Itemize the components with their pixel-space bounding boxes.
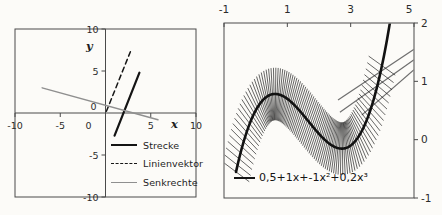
plots-layer: -10-505101050-5-10-1135210-1 (0, 0, 442, 215)
y-tick-label: 5 (92, 66, 98, 77)
legend-item-senkrechte: Senkrechte (111, 173, 203, 192)
right-y-tick-label: 0 (421, 133, 428, 145)
legend-item-linienvektor: Linienvektor (111, 155, 203, 174)
top-x-tick-label: 3 (347, 3, 354, 15)
left-chart-x-axis-label: x (171, 119, 178, 131)
legend-item-strecke: Strecke (111, 136, 203, 155)
cubic-formula-label: 0,5+1x+-1x²+0,2x³ (259, 171, 368, 184)
x-tick-label: -10 (7, 120, 23, 131)
x-tick-label: -5 (56, 120, 65, 131)
cubic-curve-swatch (234, 177, 255, 179)
y-tick-label: -5 (89, 150, 98, 161)
scanned-figure: -10-505101050-5-10-1135210-1 y x Strecke… (0, 0, 442, 215)
left-chart-y-axis-label: y (86, 41, 93, 53)
top-x-tick-label: -1 (219, 3, 229, 15)
right-plot-content (223, 11, 414, 182)
x-tick-label: 0 (85, 120, 91, 131)
x-tick-label: 10 (190, 120, 202, 131)
legend-label: Senkrechte (143, 177, 198, 188)
strecke-line-swatch (111, 144, 137, 146)
linienvektor-line-swatch (111, 163, 137, 164)
legend-label: Linienvektor (143, 158, 203, 169)
senkrechte-line-swatch (111, 182, 137, 183)
y-tick-label: 10 (86, 24, 98, 35)
x-tick-label: 5 (148, 120, 154, 131)
legend-label: Strecke (143, 140, 179, 151)
right-y-tick-label: 1 (421, 75, 428, 87)
series-line-senkrechte (42, 88, 158, 120)
series-line-strecke (115, 73, 140, 136)
y-tick-label: -10 (83, 192, 99, 203)
right-chart-legend: 0,5+1x+-1x²+0,2x³ (234, 171, 368, 184)
right-y-tick-label: -1 (421, 192, 431, 204)
right-y-tick-label: 2 (421, 17, 428, 29)
top-x-tick-label: 1 (284, 3, 291, 15)
top-x-tick-label: 5 (406, 3, 413, 15)
left-chart-legend: Strecke Linienvektor Senkrechte (111, 136, 203, 192)
